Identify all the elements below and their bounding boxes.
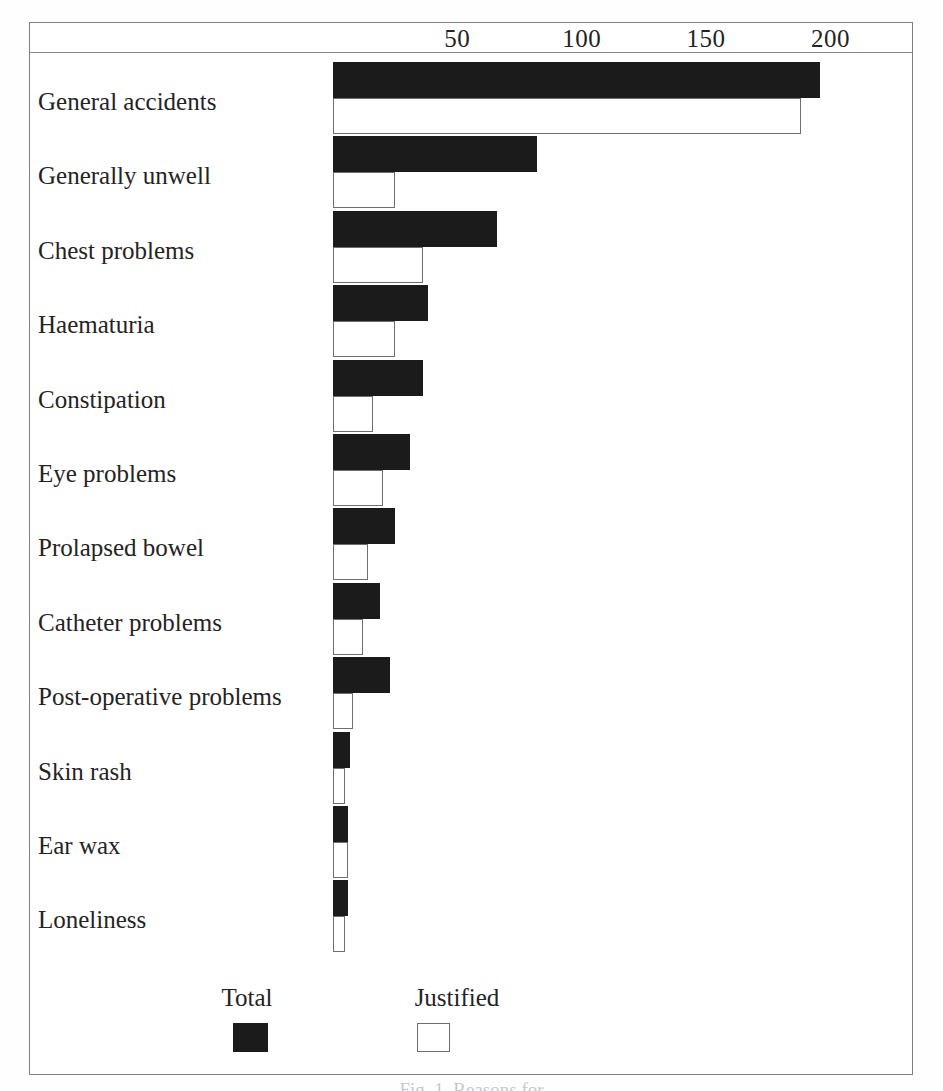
category-label: Ear wax <box>38 833 121 858</box>
bar-total <box>333 806 348 842</box>
chart-page: 50100150200General accidentsGenerally un… <box>0 0 943 1091</box>
category-label: Prolapsed bowel <box>38 535 204 560</box>
category-label: Generally unwell <box>38 163 211 188</box>
figure-caption: Fig. 1. Reasons for <box>0 1080 943 1091</box>
plot-area: 50100150200General accidentsGenerally un… <box>0 0 943 1091</box>
bar-total <box>333 880 348 916</box>
x-axis-tick-label: 50 <box>417 26 497 51</box>
category-label: Constipation <box>38 387 166 412</box>
category-label: Catheter problems <box>38 610 222 635</box>
category-label: Post-operative problems <box>38 684 282 709</box>
bar-justified <box>333 768 345 804</box>
bar-total <box>333 136 537 172</box>
legend-label-total: Total <box>177 985 317 1010</box>
bar-justified <box>333 98 801 134</box>
legend-swatch-total <box>233 1023 268 1052</box>
x-axis-tick-label: 100 <box>542 26 622 51</box>
bar-total <box>333 211 497 247</box>
bar-justified <box>333 916 345 952</box>
bar-justified <box>333 172 395 208</box>
bar-justified <box>333 842 348 878</box>
category-label: Skin rash <box>38 759 132 784</box>
bar-justified <box>333 619 363 655</box>
category-label: Eye problems <box>38 461 176 486</box>
bar-total <box>333 285 428 321</box>
bar-justified <box>333 693 353 729</box>
category-label: General accidents <box>38 89 216 114</box>
bar-justified <box>333 544 368 580</box>
legend-swatch-justified <box>417 1023 450 1052</box>
bar-total <box>333 360 423 396</box>
bar-total <box>333 508 395 544</box>
bar-justified <box>333 321 395 357</box>
bar-total <box>333 434 410 470</box>
bar-total <box>333 657 390 693</box>
bar-justified <box>333 470 383 506</box>
bar-total <box>333 732 350 768</box>
category-label: Haematuria <box>38 312 155 337</box>
x-axis-tick-label: 200 <box>790 26 870 51</box>
bar-justified <box>333 247 423 283</box>
legend-label-justified: Justified <box>387 985 527 1010</box>
bar-total <box>333 62 820 98</box>
bar-justified <box>333 396 373 432</box>
category-label: Chest problems <box>38 238 194 263</box>
x-axis-tick-label: 150 <box>666 26 746 51</box>
bar-total <box>333 583 380 619</box>
category-label: Loneliness <box>38 907 146 932</box>
